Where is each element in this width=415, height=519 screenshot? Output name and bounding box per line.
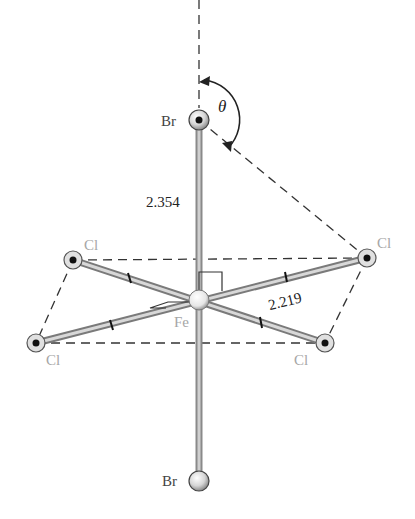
br-bottom-label: Br (162, 473, 177, 489)
br-top-atom (189, 110, 209, 130)
fe-br-bond-length: 2.354 (146, 194, 180, 210)
br-top-label: Br (161, 113, 176, 129)
cl-lower-left-label: Cl (46, 352, 60, 368)
cl-lower-right-label: Cl (294, 352, 308, 368)
cl-upper-left-label: Cl (84, 237, 98, 253)
theta-label: θ (218, 97, 226, 116)
br-bottom-atom (189, 471, 209, 491)
fe-atom (189, 290, 209, 310)
molecule-diagram: θ (0, 0, 415, 519)
cl-lower-left-atom (27, 334, 45, 352)
dashed-br-cl (199, 120, 367, 258)
fe-label: Fe (174, 314, 189, 330)
cl-upper-left-atom (64, 251, 82, 269)
fe-cl-bond-length: 2.219 (267, 289, 304, 313)
cl-lower-right-atom (316, 334, 334, 352)
cl-upper-right-label: Cl (377, 235, 391, 251)
cl-upper-right-atom (358, 249, 376, 267)
